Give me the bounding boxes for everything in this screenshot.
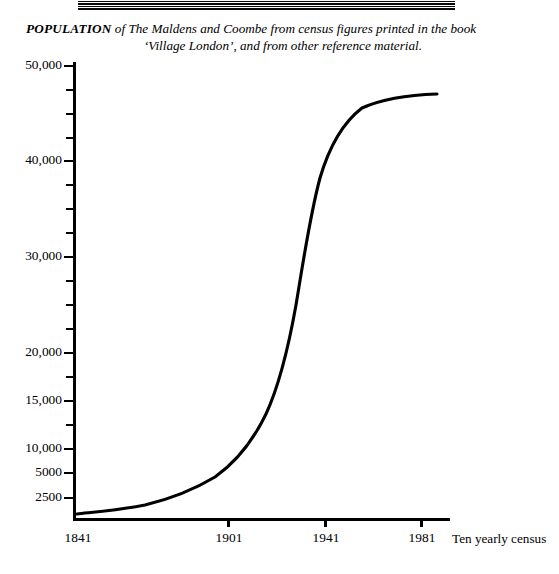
population-curve-layer [0,0,559,574]
population-curve [77,94,437,514]
chart-page: POPULATION of The Maldens and Coombe fro… [0,0,559,574]
